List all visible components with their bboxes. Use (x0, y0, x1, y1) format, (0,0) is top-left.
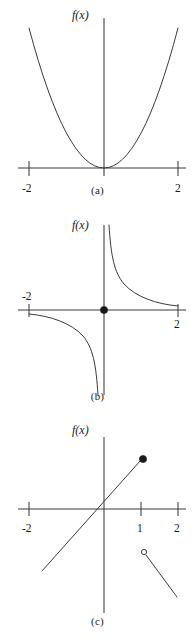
x-tick-label-2: 2 (174, 318, 180, 330)
panel-b-caption: (b) (0, 390, 195, 402)
line-through-origin (42, 460, 141, 571)
closed-endpoint (139, 455, 146, 462)
second-branch-segment (146, 555, 177, 597)
panel-c: f(x) -2 1 2 (c) (0, 415, 195, 640)
panel-c-plot: f(x) -2 1 2 (0, 415, 195, 640)
hyperbola-branch-upper-right (109, 225, 178, 306)
panel-b-plot: f(x) -2 2 (0, 210, 195, 415)
panel-b: f(x) -2 2 (b) (0, 210, 195, 415)
open-endpoint (141, 549, 146, 554)
x-tick-label-minus2: -2 (22, 522, 32, 534)
x-tick-label-1: 1 (137, 522, 143, 534)
panel-a-plot: f(x) -2 2 (0, 0, 195, 210)
y-axis-label: f(x) (72, 423, 89, 437)
hyperbola-branch-lower-left (29, 314, 98, 395)
panel-a: f(x) -2 2 (a) (0, 0, 195, 210)
y-axis-label: f(x) (72, 218, 89, 232)
y-axis-label: f(x) (72, 8, 89, 22)
panel-a-caption: (a) (0, 184, 195, 196)
figure-sheet: f(x) -2 2 (a) f(x) -2 2 (b) (0, 0, 195, 640)
x-tick-label-2: 2 (174, 522, 180, 534)
origin-filled-point (100, 306, 107, 313)
x-tick-label-minus2: -2 (22, 290, 32, 302)
panel-c-caption: (c) (0, 615, 195, 627)
